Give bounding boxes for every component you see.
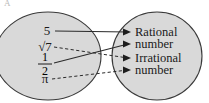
domain-set-ellipse [0, 12, 101, 100]
mapping-diagram: 5 √7 1 2 π Rational number Irrational nu… [0, 0, 209, 103]
number-classification-figure: 5 √7 1 2 π Rational number Irrational nu… [0, 0, 209, 103]
element-label-five: 5 [44, 23, 51, 38]
figure-corner-mark: A [4, 0, 11, 8]
target-label-irrational-line2: number [135, 63, 174, 77]
element-label-pi: π [42, 71, 49, 86]
fraction-numerator: 1 [42, 50, 48, 64]
target-label-rational-line2: number [135, 37, 174, 51]
